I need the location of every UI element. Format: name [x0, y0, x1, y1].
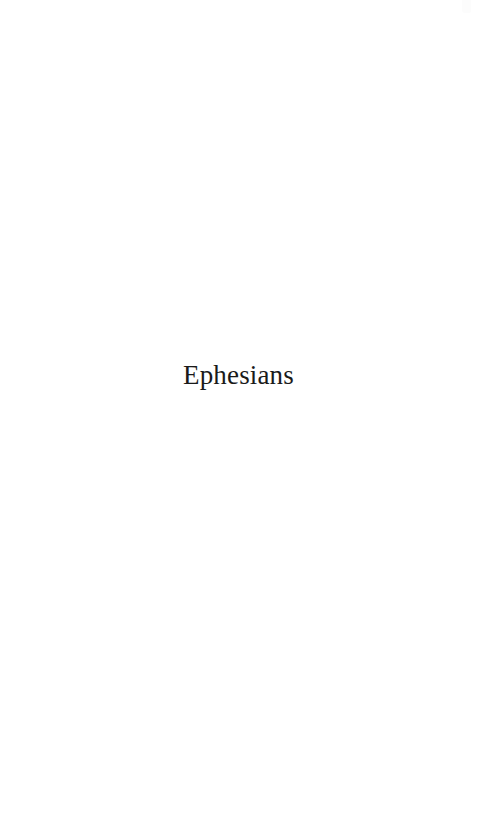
part-title-block: Ephesians: [0, 362, 477, 388]
book-title: Ephesians: [183, 362, 294, 388]
scanned-page: Ephesians: [0, 0, 477, 819]
scan-edge-artifact-icon: [462, 0, 471, 13]
